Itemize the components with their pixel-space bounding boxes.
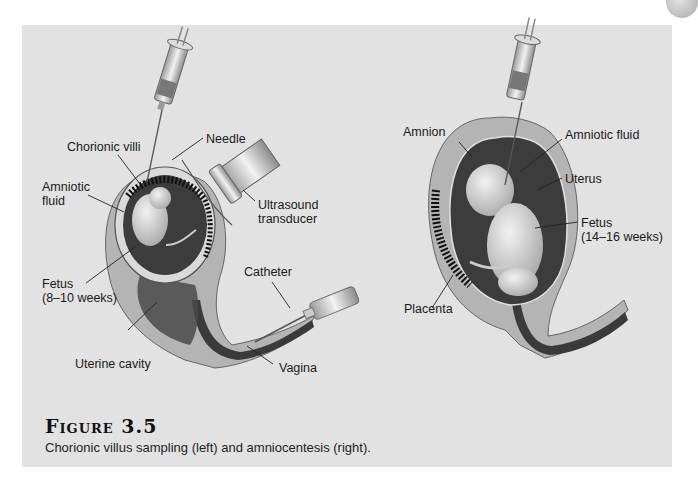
label-fetus-right-1: Fetus <box>581 216 612 230</box>
figure-caption: Chorionic villus sampling (left) and amn… <box>45 440 371 455</box>
label-chorionic-villi: Chorionic villi <box>67 140 141 154</box>
label-amnion: Amnion <box>403 125 445 139</box>
label-placenta: Placenta <box>404 302 453 316</box>
cvs-illustration <box>106 24 360 368</box>
label-fetus-right-2: (14–16 weeks) <box>581 230 663 244</box>
figure-title: Figure 3.5 <box>45 415 157 437</box>
label-vagina: Vagina <box>279 361 317 375</box>
label-uterine-cavity: Uterine cavity <box>75 357 151 371</box>
label-ultrasound-2: transducer <box>258 212 317 226</box>
label-needle: Needle <box>206 132 246 146</box>
label-fetus-left-1: Fetus <box>42 277 73 291</box>
label-amniotic-fluid-right: Amniotic fluid <box>565 128 639 142</box>
amnio-illustration <box>429 16 628 358</box>
label-amniotic-fluid-2: fluid <box>42 194 65 208</box>
label-amniotic-fluid-1: Amniotic <box>42 180 90 194</box>
label-catheter: Catheter <box>244 265 292 279</box>
label-ultrasound-1: Ultrasound <box>258 198 318 212</box>
label-uterus: Uterus <box>565 172 602 186</box>
label-fetus-left-2: (8–10 weeks) <box>42 291 117 305</box>
